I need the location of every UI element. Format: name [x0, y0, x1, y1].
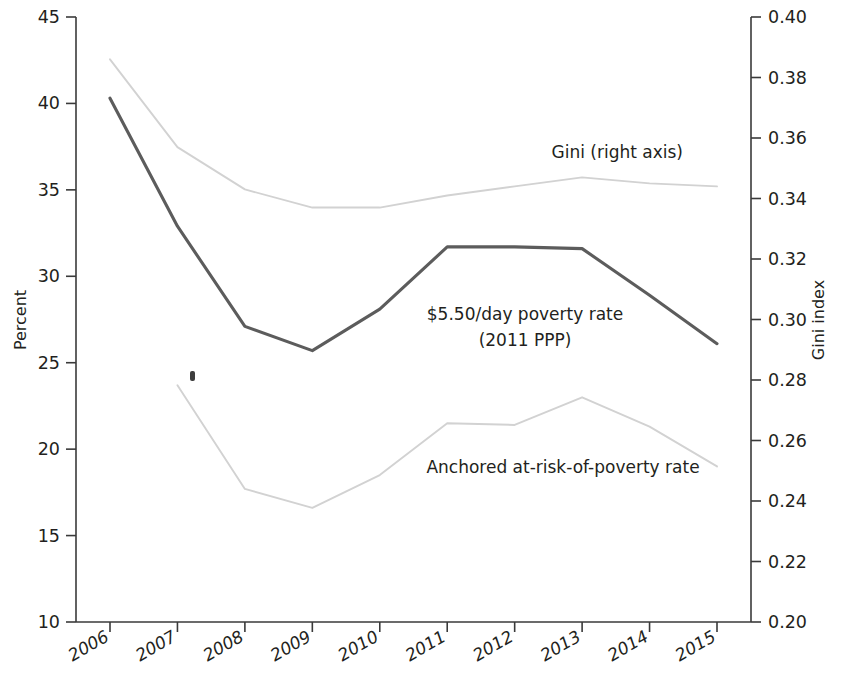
- x-axis-tick-label: 2013: [537, 626, 584, 665]
- right-axis-tick-label: 0.30: [768, 310, 807, 330]
- series-line-anchored-at-risk-of-poverty-rate: [177, 385, 717, 508]
- print-artifact-mark: [190, 371, 195, 381]
- left-axis-tick-label: 20: [38, 439, 60, 459]
- right-axis-tick-label: 0.24: [768, 491, 807, 511]
- left-axis: 1015202530354045 Percent: [11, 7, 76, 632]
- x-axis-tick-label: 2006: [65, 626, 113, 665]
- bottom-axis-ticks: [110, 622, 717, 632]
- right-axis-tick-label: 0.26: [768, 431, 807, 451]
- right-axis-tick-labels: 0.200.220.240.260.280.300.320.340.360.38…: [768, 7, 807, 632]
- right-axis-tick-label: 0.32: [768, 249, 807, 269]
- right-axis-tick-label: 0.20: [768, 612, 807, 632]
- annotation-poverty-label-line2: (2011 PPP): [479, 330, 572, 350]
- bottom-axis: 2006200720082009201020112012201320142015: [65, 622, 751, 665]
- x-axis-tick-label: 2011: [402, 626, 449, 665]
- x-axis-tick-label: 2010: [334, 626, 381, 665]
- x-axis-tick-label: 2014: [604, 626, 651, 665]
- left-axis-tick-label: 40: [38, 93, 60, 113]
- x-axis-tick-label: 2009: [267, 626, 314, 665]
- x-axis-tick-label: 2008: [199, 626, 247, 665]
- right-axis-tick-label: 0.22: [768, 552, 807, 572]
- left-axis-ticks: [66, 17, 76, 622]
- left-axis-tick-label: 15: [38, 526, 60, 546]
- right-axis: 0.200.220.240.260.280.300.320.340.360.38…: [751, 7, 828, 632]
- right-axis-ticks: [751, 17, 761, 622]
- x-axis-tick-label: 2015: [672, 626, 719, 665]
- annotation-poverty-label-line1: $5.50/day poverty rate: [427, 304, 623, 324]
- right-axis-title: Gini index: [809, 280, 828, 360]
- left-axis-tick-label: 25: [38, 353, 60, 373]
- right-axis-tick-label: 0.34: [768, 189, 807, 209]
- series-line-550-day-poverty-rate: [110, 98, 717, 350]
- chart-figure: 1015202530354045 Percent 0.200.220.240.2…: [0, 0, 843, 677]
- right-axis-tick-label: 0.38: [768, 68, 807, 88]
- right-axis-tick-label: 0.36: [768, 128, 807, 148]
- chart-canvas: 1015202530354045 Percent 0.200.220.240.2…: [0, 0, 843, 677]
- left-axis-tick-label: 30: [38, 266, 60, 286]
- series-group: [110, 59, 717, 508]
- left-axis-tick-label: 35: [38, 180, 60, 200]
- series-line-gini: [110, 59, 717, 207]
- left-axis-tick-label: 10: [38, 612, 60, 632]
- left-axis-title: Percent: [11, 290, 30, 350]
- x-axis-tick-label: 2007: [132, 626, 180, 665]
- annotation-gini-label: Gini (right axis): [552, 142, 683, 162]
- x-axis-tick-label: 2012: [469, 626, 516, 665]
- right-axis-tick-label: 0.40: [768, 7, 807, 27]
- right-axis-tick-label: 0.28: [768, 370, 807, 390]
- annotation-anchored-label: Anchored at-risk-of-poverty rate: [426, 457, 699, 477]
- left-axis-tick-labels: 1015202530354045: [38, 7, 60, 632]
- bottom-axis-tick-labels: 2006200720082009201020112012201320142015: [65, 626, 719, 665]
- left-axis-tick-label: 45: [38, 7, 60, 27]
